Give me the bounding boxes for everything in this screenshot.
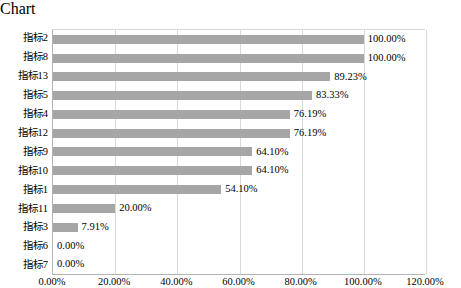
bar-value-label: 20.00% [115, 203, 151, 214]
plot-area: 100.00%100.00%89.23%83.33%76.19%76.19%64… [52, 29, 425, 275]
x-axis-tick-label: 40.00% [160, 277, 192, 288]
bar-value-label: 83.33% [312, 90, 348, 101]
x-axis-tick-label: 60.00% [222, 277, 254, 288]
bar-row: 76.19% [53, 105, 425, 124]
category-label: 指标1 [0, 180, 52, 199]
bar-value-label: 89.23% [330, 72, 366, 83]
bar[interactable] [53, 223, 78, 232]
bar-value-label: 76.19% [290, 109, 326, 120]
bar[interactable] [53, 166, 252, 175]
x-axis-tick-label: 20.00% [98, 277, 130, 288]
category-label: 指标12 [0, 124, 52, 143]
category-label: 指标10 [0, 161, 52, 180]
category-label: 指标9 [0, 143, 52, 162]
bar-value-label: 7.91% [78, 222, 109, 233]
bar[interactable] [53, 54, 364, 63]
bar-row: 54.10% [53, 180, 425, 199]
gridline [426, 30, 427, 274]
bar-row: 100.00% [53, 49, 425, 68]
bar-value-label: 100.00% [364, 34, 406, 45]
bar-row: 83.33% [53, 86, 425, 105]
bar[interactable] [53, 35, 364, 44]
category-label: 指标13 [0, 67, 52, 86]
category-label: 指标7 [0, 256, 52, 275]
category-label: 指标4 [0, 105, 52, 124]
bar-row: 64.10% [53, 161, 425, 180]
x-axis-tick-label: 80.00% [284, 277, 316, 288]
bar-value-label: 64.10% [252, 147, 288, 158]
bar-value-label: 76.19% [290, 128, 326, 139]
category-label: 指标11 [0, 199, 52, 218]
category-label: 指标5 [0, 86, 52, 105]
bar-row: 7.91% [53, 218, 425, 237]
bar[interactable] [53, 91, 312, 100]
bar[interactable] [53, 72, 330, 81]
category-label: 指标3 [0, 218, 52, 237]
bar[interactable] [53, 110, 290, 119]
bar-rows: 100.00%100.00%89.23%83.33%76.19%76.19%64… [53, 30, 425, 274]
bar[interactable] [53, 129, 290, 138]
bar-chart: 指标2指标8指标13指标5指标4指标12指标9指标10指标1指标11指标3指标6… [0, 18, 461, 288]
bar-row: 64.10% [53, 143, 425, 162]
bar-value-label: 100.00% [364, 53, 406, 64]
value-axis: 0.00%20.00%40.00%60.00%80.00%100.00%120.… [52, 277, 425, 288]
bar-value-label: 0.00% [53, 259, 84, 270]
bar[interactable] [53, 147, 252, 156]
bar-row: 76.19% [53, 124, 425, 143]
bar-row: 0.00% [53, 255, 425, 274]
x-axis-tick-label: 100.00% [344, 277, 382, 288]
category-label: 指标8 [0, 48, 52, 67]
bar-row: 20.00% [53, 199, 425, 218]
bar-row: 0.00% [53, 236, 425, 255]
category-label: 指标2 [0, 29, 52, 48]
category-axis: 指标2指标8指标13指标5指标4指标12指标9指标10指标1指标11指标3指标6… [0, 29, 52, 275]
bar[interactable] [53, 185, 221, 194]
bar-value-label: 54.10% [221, 184, 257, 195]
bar-row: 89.23% [53, 68, 425, 87]
bar-value-label: 64.10% [252, 165, 288, 176]
x-axis-tick-label: 0.00% [38, 277, 65, 288]
bar[interactable] [53, 204, 115, 213]
bar-row: 100.00% [53, 30, 425, 49]
category-label: 指标6 [0, 237, 52, 256]
x-axis-tick-label: 120.00% [406, 277, 444, 288]
bar-value-label: 0.00% [53, 241, 84, 252]
